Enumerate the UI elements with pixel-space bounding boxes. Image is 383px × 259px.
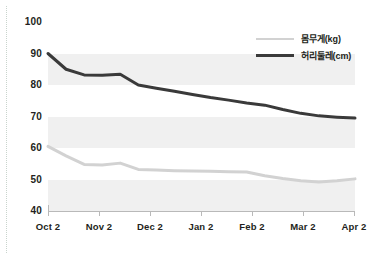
- legend-swatch-weight-icon: [256, 38, 294, 40]
- series-line-weight: [48, 146, 355, 182]
- legend-label-waist: 허리둘레(cm): [301, 49, 351, 62]
- legend-label-weight: 몸무게(kg): [301, 32, 341, 45]
- legend-item-waist[interactable]: 허리둘레(cm): [256, 47, 378, 64]
- legend-item-weight[interactable]: 몸무게(kg): [256, 30, 378, 47]
- chart-legend: 몸무게(kg) 허리둘레(cm): [256, 30, 378, 64]
- chart-container: 100 90 80 70 60 50 40 Oct 2 Nov 2 Dec 2 …: [0, 0, 383, 259]
- legend-swatch-waist-icon: [256, 54, 294, 57]
